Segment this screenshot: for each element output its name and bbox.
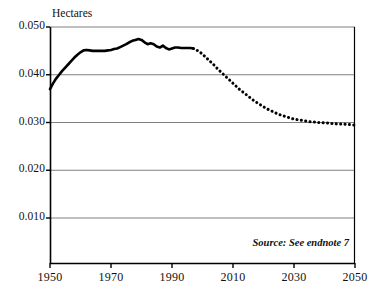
x-axis-tick-label: 2050 [330, 270, 372, 285]
y-axis-tick-label: 0.010 [3, 210, 45, 222]
series-line-projected [193, 48, 355, 124]
y-axis-tick-label: 0.040 [3, 67, 45, 79]
x-axis-tick-label: 1990 [147, 270, 197, 285]
y-axis-tick-label: 0.020 [3, 162, 45, 174]
x-axis-tick-label: 1970 [86, 270, 136, 285]
x-axis-tick-label: 2030 [269, 270, 319, 285]
chart-canvas [0, 0, 372, 300]
source-note: Source: See endnote 7 [252, 237, 349, 248]
y-axis-tick-label: 0.030 [3, 115, 45, 127]
series-line-historical [50, 39, 193, 89]
y-tick-marks [46, 27, 50, 218]
chart-figure: Hectares 0.0500.0400.0300.0200.010 19501… [0, 0, 372, 300]
x-axis-tick-label: 2010 [208, 270, 258, 285]
x-axis-tick-label: 1950 [25, 270, 75, 285]
y-axis-tick-label: 0.050 [3, 19, 45, 31]
